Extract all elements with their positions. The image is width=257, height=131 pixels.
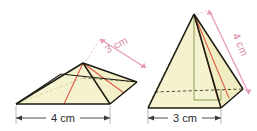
base-length-label-right: 3 cm xyxy=(173,112,197,124)
right-pyramid-group: 4 cm 3 cm xyxy=(148,10,252,125)
left-pyramid-group: 3 cm 4 cm xyxy=(16,34,146,125)
base-length-label-left: 4 cm xyxy=(51,112,75,124)
pyramids-diagram: 3 cm 4 cm xyxy=(0,0,257,131)
diagram-canvas: 3 cm 4 cm xyxy=(0,0,257,131)
slant-height-label-left: 3 cm xyxy=(103,34,130,56)
left-slant-leader-line xyxy=(86,39,100,61)
slant-edge-label-right: 4 cm xyxy=(230,31,251,58)
right-slant-leader-line-top xyxy=(196,10,209,14)
